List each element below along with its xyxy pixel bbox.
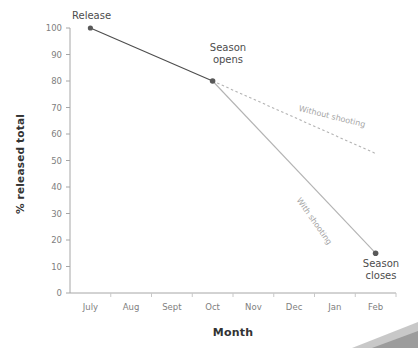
x-tick-july: July xyxy=(67,303,113,312)
y-tick-80: 80 xyxy=(36,77,62,86)
marker-season-opens xyxy=(210,78,216,84)
x-tick-oct: Oct xyxy=(190,303,236,312)
chart-container: 100 90 80 70 60 50 40 30 20 10 0 July Au… xyxy=(0,0,418,348)
x-tick-feb: Feb xyxy=(353,303,399,312)
y-tick-70: 70 xyxy=(36,104,62,113)
annotation-season-closes: Season closes xyxy=(352,258,410,281)
y-axis-title: % released total xyxy=(14,99,26,229)
y-tick-30: 30 xyxy=(36,210,62,219)
x-tick-sept: Sept xyxy=(149,303,195,312)
y-tick-50: 50 xyxy=(36,157,62,166)
x-axis-ticks xyxy=(111,293,396,297)
y-tick-60: 60 xyxy=(36,130,62,139)
marker-season-closes xyxy=(373,250,379,256)
y-tick-100: 100 xyxy=(36,24,62,33)
x-tick-jan: Jan xyxy=(312,303,358,312)
x-tick-nov: Nov xyxy=(230,303,276,312)
annotation-season-opens: Season opens xyxy=(196,42,260,65)
y-tick-40: 40 xyxy=(36,183,62,192)
y-axis-ticks xyxy=(66,28,70,293)
series-release-line xyxy=(90,28,212,81)
y-tick-90: 90 xyxy=(36,51,62,60)
annotation-release: Release xyxy=(72,10,111,22)
series-with-shooting-line xyxy=(213,81,376,253)
marker-release xyxy=(88,25,93,30)
x-tick-dec: Dec xyxy=(271,303,317,312)
x-axis-title: Month xyxy=(70,326,396,339)
y-tick-10: 10 xyxy=(36,263,62,272)
y-tick-0: 0 xyxy=(36,289,62,298)
y-tick-20: 20 xyxy=(36,236,62,245)
x-tick-aug: Aug xyxy=(108,303,154,312)
